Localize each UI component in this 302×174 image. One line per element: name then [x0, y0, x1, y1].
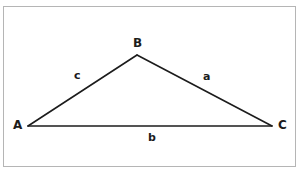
triangle-side-a-line — [137, 55, 272, 126]
side-label-b: b — [148, 132, 156, 143]
side-label-c: c — [74, 70, 81, 81]
diagram-canvas: A B C a b c — [0, 0, 302, 174]
vertex-label-b: B — [133, 37, 142, 49]
triangle-figure — [0, 0, 302, 174]
triangle-side-c-line — [28, 55, 137, 126]
vertex-label-c: C — [278, 119, 287, 131]
vertex-label-a: A — [13, 119, 22, 131]
side-label-a: a — [203, 71, 210, 82]
